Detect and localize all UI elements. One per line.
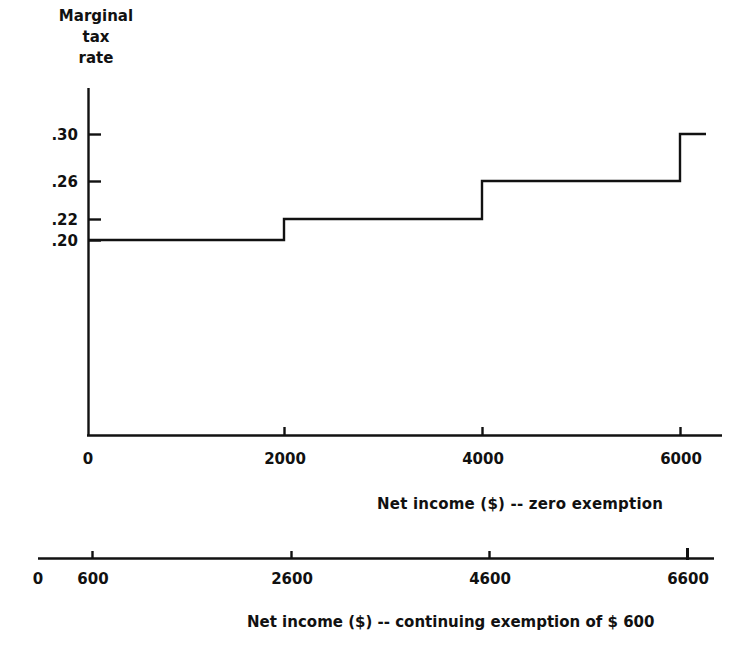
- y-tick-label-030: .30: [32, 126, 78, 144]
- y-tick-label-026: .26: [32, 173, 78, 191]
- secondary-x-tick-label-4600: 4600: [455, 570, 525, 588]
- secondary-x-tick-label-600: 600: [58, 570, 128, 588]
- y-tick-label-020: .20: [32, 232, 78, 250]
- x-tick-label-2000: 2000: [250, 450, 320, 468]
- step-function-series: [88, 134, 706, 240]
- chart-plot-area: [0, 0, 736, 650]
- y-tick-label-022: .22: [32, 211, 78, 229]
- x-tick-label-6000: 6000: [646, 450, 716, 468]
- secondary-x-tick-label-6600: 6600: [653, 570, 723, 588]
- secondary-x-axis-title: Net income ($) -- continuing exemption o…: [247, 613, 654, 631]
- x-axis-title: Net income ($) -- zero exemption: [377, 495, 663, 513]
- x-tick-label-4000: 4000: [448, 450, 518, 468]
- figure-canvas: Marginal tax rate .30 .26 .22 .20 0 2000…: [0, 0, 736, 650]
- x-tick-label-0: 0: [53, 450, 123, 468]
- secondary-x-tick-label-2600: 2600: [257, 570, 327, 588]
